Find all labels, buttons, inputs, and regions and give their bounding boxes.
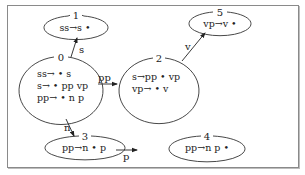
node-item: ss→ • s bbox=[37, 68, 71, 79]
node-item: vp→ • v bbox=[131, 83, 169, 94]
node-item: ss→s • bbox=[59, 22, 90, 33]
state-node-5: 5 vp→v • bbox=[189, 7, 251, 36]
node-number: 2 bbox=[156, 53, 162, 64]
edge-label: s bbox=[79, 44, 84, 55]
node-item: vp→v • bbox=[202, 18, 236, 29]
state-diagram: 1 ss→s • 0 ss→ • s s→ • pp vp pp→ • n p … bbox=[0, 0, 305, 175]
state-node-2: 2 s→pp • vp vp→ • v bbox=[119, 53, 199, 124]
node-item: pp→n p • bbox=[185, 142, 229, 153]
node-item: s→ • pp vp bbox=[37, 80, 88, 91]
node-number: 0 bbox=[58, 52, 64, 63]
edge-0-3: n bbox=[64, 119, 74, 136]
edge-label: n bbox=[64, 122, 71, 133]
edge-label: v bbox=[184, 41, 191, 52]
node-item: s→pp • vp bbox=[132, 71, 180, 82]
node-item: pp→n • p bbox=[62, 142, 106, 153]
state-node-0: 0 ss→ • s s→ • pp vp pp→ • n p bbox=[19, 52, 103, 125]
edge-3-4: p bbox=[116, 150, 137, 162]
node-number: 1 bbox=[73, 10, 79, 21]
node-number: 3 bbox=[82, 131, 88, 142]
node-item: pp→ • n p bbox=[37, 92, 84, 103]
node-number: 5 bbox=[217, 7, 223, 18]
edge-0-1: s bbox=[71, 38, 84, 57]
node-number: 4 bbox=[204, 131, 210, 142]
state-node-1: 1 ss→s • bbox=[44, 10, 108, 40]
edge-2-5: v bbox=[182, 33, 205, 61]
edge-0-2: pp bbox=[98, 72, 117, 84]
edge-label: p bbox=[123, 151, 129, 162]
state-node-4: 4 pp→n p • bbox=[169, 131, 245, 162]
edge-label: pp bbox=[98, 72, 111, 83]
state-node-3: 3 pp→n • p bbox=[45, 131, 125, 160]
